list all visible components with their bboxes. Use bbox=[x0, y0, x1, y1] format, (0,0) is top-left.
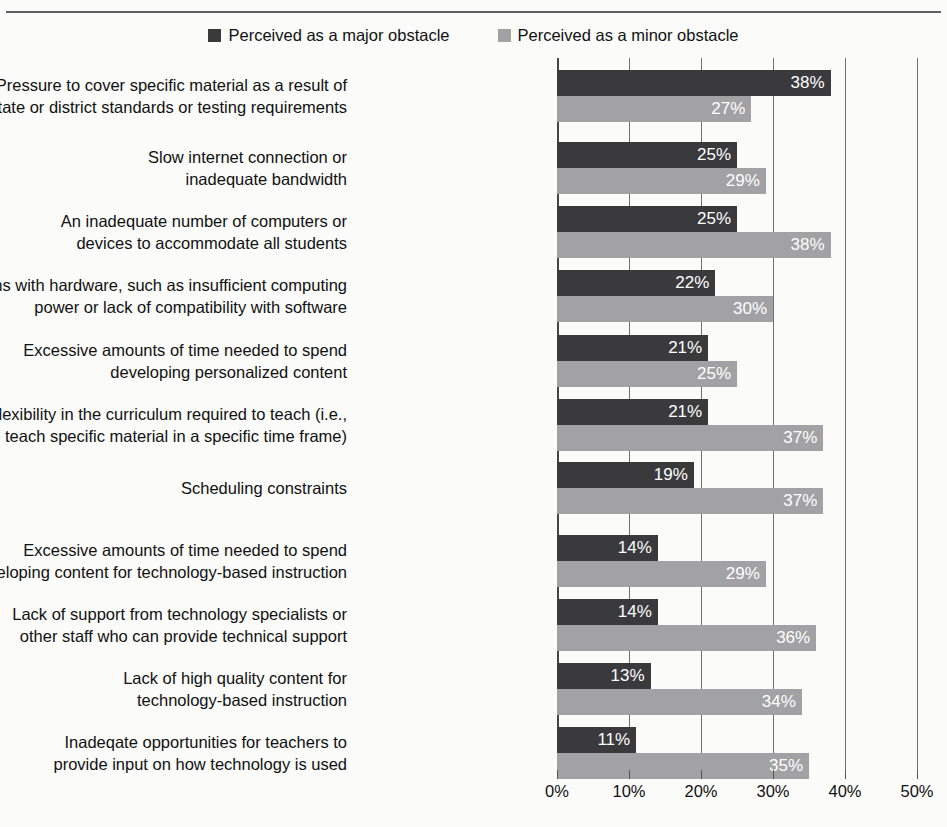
category-label: Excessive amounts of time needed to spen… bbox=[0, 339, 347, 383]
bar-value-label: 36% bbox=[557, 625, 816, 651]
x-tick-label: 50% bbox=[900, 782, 933, 801]
bar-value-label: 21% bbox=[557, 399, 708, 425]
bar-value-label: 30% bbox=[557, 296, 773, 322]
category-label: Lack of flexibility in the curriculum re… bbox=[0, 403, 347, 447]
x-tick-20 bbox=[701, 770, 702, 779]
x-tick-label: 0% bbox=[545, 782, 569, 801]
x-tick-0 bbox=[557, 770, 558, 779]
bar-value-label: 14% bbox=[557, 535, 658, 561]
bar-value-label: 21% bbox=[557, 335, 708, 361]
chart-page: Perceived as a major obstaclePerceived a… bbox=[0, 0, 947, 827]
category-label: Lack of high quality content for technol… bbox=[0, 667, 347, 711]
bar-value-label: 37% bbox=[557, 425, 823, 451]
category-label: Problems with hardware, such as insuffic… bbox=[0, 274, 347, 318]
x-tick-30 bbox=[773, 770, 774, 779]
category-label: An inadequate number of computers or dev… bbox=[0, 210, 347, 254]
category-label: Pressure to cover specific material as a… bbox=[0, 74, 347, 118]
bar-value-label: 14% bbox=[557, 599, 658, 625]
bar-value-label: 27% bbox=[557, 96, 751, 122]
bar-value-label: 29% bbox=[557, 168, 766, 194]
category-label: Scheduling constraints bbox=[0, 477, 347, 499]
bar-rows: Pressure to cover specific material as a… bbox=[0, 0, 947, 712]
x-tick-label: 30% bbox=[756, 782, 789, 801]
bar-value-label: 25% bbox=[557, 361, 737, 387]
bar-value-label: 19% bbox=[557, 462, 694, 488]
category-label: Excessive amounts of time needed to spen… bbox=[0, 539, 347, 583]
x-tick-label: 20% bbox=[684, 782, 717, 801]
bar-value-label: 25% bbox=[557, 206, 737, 232]
bar-value-label: 29% bbox=[557, 561, 766, 587]
bar-value-label: 34% bbox=[557, 689, 802, 715]
x-tick-label: 40% bbox=[828, 782, 861, 801]
x-tick-50 bbox=[917, 770, 918, 779]
x-axis: 0%10%20%30%40%50% bbox=[557, 770, 917, 810]
bar-value-label: 25% bbox=[557, 142, 737, 168]
bar-value-label: 38% bbox=[557, 70, 831, 96]
category-label: Lack of support from technology speciali… bbox=[0, 603, 347, 647]
bar-value-label: 38% bbox=[557, 232, 831, 258]
bar-value-label: 11% bbox=[557, 727, 636, 753]
bar-value-label: 13% bbox=[557, 663, 651, 689]
x-tick-label: 10% bbox=[612, 782, 645, 801]
x-tick-10 bbox=[629, 770, 630, 779]
category-label: Inadeqate opportunities for teachers to … bbox=[0, 731, 347, 775]
bar-value-label: 37% bbox=[557, 488, 823, 514]
x-tick-40 bbox=[845, 770, 846, 779]
category-label: Slow internet connection or inadequate b… bbox=[0, 146, 347, 190]
bar-value-label: 22% bbox=[557, 270, 715, 296]
